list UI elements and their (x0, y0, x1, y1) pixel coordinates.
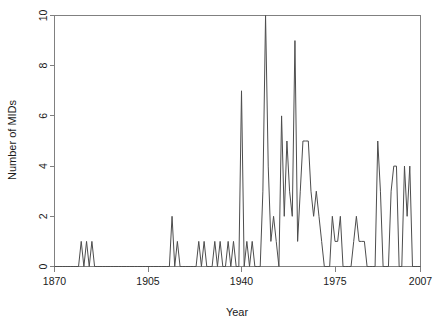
x-tick-label: 1870 (43, 275, 67, 287)
x-tick-label: 1940 (230, 275, 254, 287)
y-axis-title: Number of MIDs (6, 99, 18, 180)
y-tick-label: 8 (37, 63, 49, 69)
x-tick-labels: 18701905194019752007 (43, 275, 433, 287)
tick-marks-group (50, 16, 421, 272)
chart-container: 18701905194019752007 0246810 Year Number… (0, 0, 441, 325)
y-tick-labels: 0246810 (37, 10, 49, 270)
y-tick-label: 2 (37, 213, 49, 219)
y-tick-label: 4 (37, 163, 49, 169)
mids-line-chart: 18701905194019752007 0246810 Year Number… (0, 0, 441, 325)
plot-frame (55, 16, 421, 267)
y-tick-label: 0 (37, 263, 49, 269)
x-axis-title: Year (226, 306, 249, 318)
mids-series-line (55, 16, 421, 267)
y-tick-label: 10 (37, 10, 49, 22)
x-tick-label: 1905 (136, 275, 160, 287)
y-tick-label: 6 (37, 113, 49, 119)
x-tick-label: 2007 (409, 275, 433, 287)
x-tick-label: 1975 (323, 275, 347, 287)
axes-group (55, 16, 421, 267)
